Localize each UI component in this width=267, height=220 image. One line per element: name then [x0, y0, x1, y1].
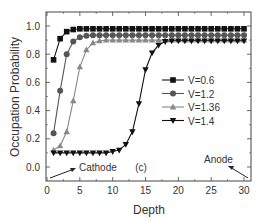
x-axis-label: Depth [133, 203, 165, 217]
triangle-up-marker [77, 63, 83, 69]
circle-marker [77, 34, 83, 40]
circle-marker [51, 130, 57, 136]
square-marker [90, 26, 96, 32]
circle-marker [83, 33, 89, 39]
square-marker [143, 26, 149, 32]
legend-label: V=1.2 [188, 89, 215, 100]
square-marker [70, 27, 76, 33]
square-marker [110, 26, 116, 32]
y-tick-label: 0.2 [26, 133, 40, 144]
cathode-arrow [50, 169, 74, 178]
square-marker [84, 26, 90, 32]
y-tick-label: 0.6 [26, 77, 40, 88]
square-marker [241, 26, 247, 32]
square-marker [136, 26, 142, 32]
circle-marker [57, 88, 63, 94]
data-series [50, 26, 247, 156]
square-marker [222, 26, 228, 32]
legend-item: V=1.4 [162, 116, 215, 127]
square-marker [51, 57, 57, 63]
square-marker [235, 26, 241, 32]
annotations: CathodeAnode [50, 154, 248, 178]
square-marker [189, 26, 195, 32]
square-marker [97, 26, 103, 32]
square-marker [208, 26, 214, 32]
square-marker [182, 26, 188, 32]
y-tick-label: 0.4 [26, 105, 40, 116]
legend-item: V=1.36 [162, 102, 220, 113]
triangle-up-marker [70, 97, 76, 103]
square-marker [123, 26, 129, 32]
square-marker [116, 26, 122, 32]
triangle-down-marker [142, 67, 148, 73]
y-tick-label: 1.0 [26, 21, 40, 32]
circle-marker [90, 32, 96, 38]
circle-marker [170, 91, 176, 97]
occupation-probability-chart: 0510152025300.00.20.40.60.81.0 V=0.6V=1.… [0, 0, 267, 220]
series-v-0-6 [51, 26, 247, 63]
x-tick-label: 25 [206, 185, 218, 196]
square-marker [77, 26, 83, 32]
circle-marker [64, 51, 70, 57]
square-marker [162, 26, 168, 32]
square-marker [202, 26, 208, 32]
circle-marker [97, 32, 103, 38]
y-tick-label: 0.8 [26, 49, 40, 60]
circle-marker [70, 39, 76, 45]
square-marker [130, 26, 136, 32]
square-marker [149, 26, 155, 32]
square-marker [64, 29, 70, 35]
y-axis-label: Occupation Probability [8, 37, 22, 157]
legend-label: V=1.36 [188, 102, 220, 113]
series-v-1-2 [51, 32, 247, 136]
square-marker [176, 26, 182, 32]
x-tick-label: 10 [107, 185, 119, 196]
square-marker [195, 26, 201, 32]
legend-item: V=0.6 [162, 75, 215, 86]
square-marker [169, 26, 175, 32]
series-line [54, 40, 244, 150]
triangle-down-marker [136, 101, 142, 107]
x-tick-label: 20 [173, 185, 185, 196]
cathode-label: Cathode [79, 162, 117, 173]
triangle-up-marker [57, 142, 63, 148]
legend-label: V=1.4 [188, 116, 215, 127]
legend-item: V=1.2 [162, 89, 215, 100]
legend-label: V=0.6 [188, 75, 215, 86]
square-marker [57, 36, 63, 42]
triangle-down-marker [149, 50, 155, 56]
square-marker [215, 26, 221, 32]
x-tick-label: 15 [140, 185, 152, 196]
x-tick-label: 5 [77, 185, 83, 196]
triangle-down-marker [129, 129, 135, 135]
triangle-up-marker [64, 128, 70, 134]
series-v-1-36 [50, 37, 247, 153]
x-tick-label: 0 [44, 185, 50, 196]
panel-label: (c) [135, 162, 147, 173]
y-tick-label: 0.0 [26, 162, 40, 173]
x-tick-label: 30 [238, 185, 250, 196]
series-line [54, 35, 244, 133]
square-marker [170, 77, 176, 83]
square-marker [228, 26, 234, 32]
square-marker [156, 26, 162, 32]
anode-arrow [230, 167, 248, 178]
anode-label: Anode [204, 154, 233, 165]
legend: V=0.6V=1.2V=1.36V=1.4 [162, 75, 220, 127]
square-marker [103, 26, 109, 32]
series-line [54, 41, 244, 153]
series-v-1-4 [50, 38, 247, 156]
